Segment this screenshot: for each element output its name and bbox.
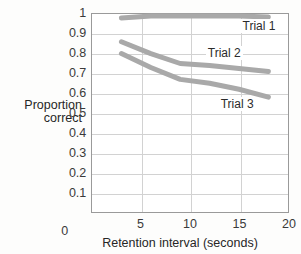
series-label-trial-3: Trial 3: [219, 97, 256, 111]
x-axis-tick-label: 20: [269, 218, 301, 231]
series-label-trial-2: Trial 2: [206, 46, 243, 60]
plot-area: [91, 13, 289, 213]
series-layer: [92, 14, 288, 212]
y-axis-tick-label: 1: [42, 7, 86, 20]
x-axis-tick-label: 15: [220, 218, 260, 231]
y-axis-tick-label: 0.8: [42, 47, 86, 60]
series-line: [121, 54, 268, 98]
y-axis-tick-label: 0.7: [42, 67, 86, 80]
x-axis-tick-label: 10: [170, 218, 210, 231]
series-line: [121, 42, 268, 72]
chart-figure: Proportion correct 0.10.20.30.40.50.60.7…: [0, 0, 301, 254]
y-axis-tick-label: 0.1: [42, 187, 86, 200]
y-axis-tick-label: 0.9: [42, 27, 86, 40]
y-axis-tick-label: 0.2: [42, 167, 86, 180]
y-axis-tick-label: 0.4: [42, 127, 86, 140]
x-axis-title: Retention interval (seconds): [61, 236, 299, 250]
x-axis-tick-label: 5: [121, 218, 161, 231]
y-axis-tick-labels: 0.10.20.30.40.50.60.70.80.910: [40, 13, 86, 213]
series-line: [121, 16, 268, 18]
y-axis-tick-label: 0.5: [42, 107, 86, 120]
y-axis-tick-label: 0.6: [42, 87, 86, 100]
series-label-trial-1: Trial 1: [241, 19, 278, 33]
x-axis-tick-labels: 5101520: [91, 218, 289, 236]
y-axis-tick-label: 0.3: [42, 147, 86, 160]
